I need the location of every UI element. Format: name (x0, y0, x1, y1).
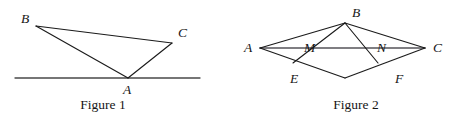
figure-1-label-B: B (21, 12, 29, 26)
figure-1-label-A: A (123, 83, 131, 97)
figure-1-label-C: C (178, 26, 187, 40)
segment-BC (36, 26, 172, 43)
figure-2-label-B: B (352, 6, 360, 20)
segment-BA (36, 26, 128, 78)
figure-2: A B C M N E F Figure 2 (228, 0, 456, 121)
segment-BE (293, 23, 345, 63)
figure-2-label-A: A (244, 41, 252, 55)
figure-2-caption: Figure 2 (228, 98, 456, 112)
segment-BF (345, 23, 378, 63)
figure-2-label-E: E (290, 72, 298, 86)
figure-2-label-M: M (304, 41, 315, 55)
figure-1-caption: Figure 1 (0, 98, 228, 112)
figures-root: B C A Figure 1 A B C M N E F Figure 2 (0, 0, 456, 121)
figure-1: B C A Figure 1 (0, 0, 228, 121)
figure-2-label-N: N (377, 41, 386, 55)
figure-2-label-C: C (433, 41, 442, 55)
segment-CA (128, 43, 172, 78)
segment-AD (260, 48, 345, 78)
segment-AB (260, 23, 345, 48)
figure-2-label-F: F (395, 72, 403, 86)
